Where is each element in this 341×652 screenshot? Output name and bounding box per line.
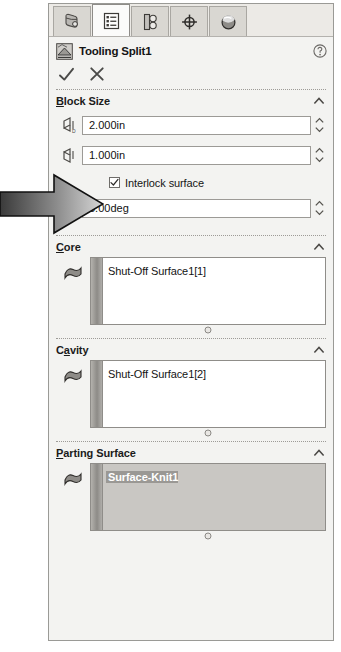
configuration-manager-tab[interactable] [131,6,169,36]
property-manager-tab-strip [49,4,333,37]
core-selection-listbox[interactable]: Shut-Off Surface1[1] [90,257,326,325]
dimxpert-manager-tab[interactable] [170,6,208,36]
resize-handle-icon[interactable] [204,532,212,540]
panel-title-row: Tooling Split1 [49,37,333,62]
spacer [49,224,333,232]
chevron-up-icon[interactable] [312,241,326,253]
section-block-size: Block Size D 2.000in [49,89,333,222]
svg-text:D: D [72,128,76,134]
close-x-icon[interactable] [89,66,105,82]
listbox-gutter [91,464,103,530]
list-item[interactable]: Shut-Off Surface1[1] [106,265,206,277]
parting-surface-selection-row: Surface-Knit1 [56,463,326,533]
cavity-selection-box-wrap: Shut-Off Surface1[2] [90,360,326,428]
parting-surface-selection-box-wrap: Surface-Knit1 [90,463,326,531]
interlock-surface-label: Interlock surface [125,177,204,189]
appearance-sphere-icon [219,13,238,31]
configuration-icon [141,13,160,31]
spacer [49,430,333,438]
cavity-selection-listbox[interactable]: Shut-Off Surface1[2] [90,360,326,428]
interlock-draft-angle-row: A 5.00deg [56,194,326,222]
cavity-selection-list: Shut-Off Surface1[2] [103,361,325,427]
core-block-depth-field[interactable]: 2.000in [82,116,311,135]
tooling-split-icon [56,43,73,60]
section-header-parting-surface[interactable]: Parting Surface [56,442,326,463]
spin-up-down-icon [314,115,325,135]
face-surface-select-icon [56,463,90,499]
interlock-draft-angle-spinner[interactable] [313,198,326,218]
depth-below-parting-icon [56,143,82,167]
chevron-up-icon[interactable] [312,95,326,107]
section-title-parting-surface: Parting Surface [56,447,136,459]
face-surface-select-icon [56,360,90,396]
checkmark-icon [110,178,119,187]
core-block-depth-row: D 2.000in [56,111,326,139]
draft-angle-icon: A [56,196,82,220]
section-cavity: Cavity Shut-Off Surface1[2] [49,338,333,430]
section-title-core: Core [56,241,81,253]
list-item[interactable]: Surface-Knit1 [106,471,178,483]
property-manager-panel: Tooling Split1 Block Size [48,3,334,641]
resize-handle-icon[interactable] [204,429,212,437]
checkmark-icon[interactable] [58,66,75,83]
interlock-surface-row[interactable]: Interlock surface [56,171,326,194]
svg-text:A: A [68,201,72,207]
chevron-up-icon[interactable] [312,344,326,356]
confirm-bar [49,62,333,86]
depth-above-parting-icon: D [56,113,82,137]
spacer [49,327,333,335]
interlock-surface-checkbox[interactable] [109,177,120,188]
list-item[interactable]: Shut-Off Surface1[2] [106,368,206,380]
resize-handle-icon[interactable] [204,326,212,334]
cavity-selection-row: Shut-Off Surface1[2] [56,360,326,430]
section-parting-surface: Parting Surface Surface-Knit1 [49,441,333,533]
cavity-block-depth-field[interactable]: 1.000in [82,146,311,165]
section-title-block-size: Block Size [56,95,110,107]
part-tree-icon [62,12,82,31]
chevron-up-icon[interactable] [312,447,326,459]
spin-up-down-icon [314,198,325,218]
interlock-draft-angle-field[interactable]: 5.00deg [82,199,311,218]
section-title-cavity: Cavity [56,344,88,356]
display-manager-tab[interactable] [209,6,247,36]
section-header-cavity[interactable]: Cavity [56,339,326,360]
core-selection-list: Shut-Off Surface1[1] [103,258,325,324]
listbox-gutter [91,361,103,427]
section-header-block-size[interactable]: Block Size [56,90,326,111]
property-manager-tab[interactable] [92,4,130,36]
face-surface-select-icon [56,257,90,293]
core-selection-row: Shut-Off Surface1[1] [56,257,326,327]
core-block-depth-spinner[interactable] [313,115,326,135]
section-core: Core Shut-Off Surface1[1] [49,235,333,327]
feature-manager-design-tree-tab[interactable] [53,6,91,36]
property-list-icon [102,12,121,30]
cavity-block-depth-row: 1.000in [56,141,326,169]
cavity-block-depth-spinner[interactable] [313,145,326,165]
core-selection-box-wrap: Shut-Off Surface1[1] [90,257,326,325]
parting-surface-selection-listbox[interactable]: Surface-Knit1 [90,463,326,531]
spin-up-down-icon [314,145,325,165]
listbox-gutter [91,258,103,324]
crosshair-target-icon [180,13,199,31]
parting-surface-selection-list: Surface-Knit1 [103,464,325,530]
page-title: Tooling Split1 [79,45,151,57]
help-question-icon[interactable] [313,44,327,58]
section-header-core[interactable]: Core [56,236,326,257]
